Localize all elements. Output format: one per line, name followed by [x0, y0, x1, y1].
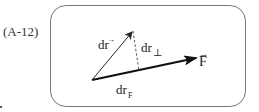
force-arrow-accent-icon: →	[199, 49, 208, 59]
dr-perp-label: dr	[141, 40, 153, 55]
dr-arrow-accent-icon: →	[107, 35, 115, 44]
dr-perp-subscript: ⊥	[153, 47, 162, 58]
vector-diagram: dr → dr ⊥ F → dr F	[0, 0, 259, 112]
dr-f-label: dr	[116, 82, 128, 97]
stray-mark	[0, 106, 2, 108]
dr-perp-dashed-line	[133, 31, 139, 71]
dr-f-subscript: F	[128, 91, 133, 100]
